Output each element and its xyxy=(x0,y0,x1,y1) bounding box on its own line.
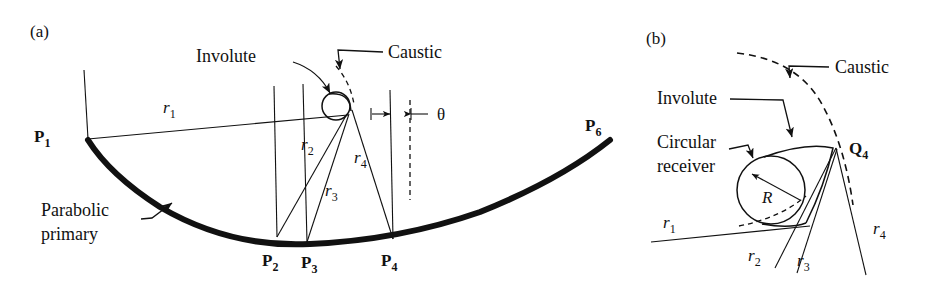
involute-leader-a xyxy=(293,62,330,93)
ray-label-r4-b-sub: 4 xyxy=(880,228,886,242)
ray-label-r1-a: r1 xyxy=(163,98,176,121)
point-label-p1-base: P xyxy=(34,127,44,146)
point-label-q4: Q4 xyxy=(849,139,868,162)
involute-curve-b xyxy=(764,146,833,223)
involute-construction-dash xyxy=(739,196,806,226)
reflected-ray-r3 xyxy=(307,114,349,242)
theta-label: θ xyxy=(437,105,445,124)
involute-label-a: Involute xyxy=(196,46,256,66)
point-label-p4: P4 xyxy=(381,251,397,274)
ray-label-r1-b-sub: 1 xyxy=(670,222,676,236)
point-label-q4-sub: 4 xyxy=(862,148,868,162)
ray-label-r2-b: r2 xyxy=(748,246,761,269)
reflected-ray-r4 xyxy=(352,110,393,239)
ray-label-r2-a: r2 xyxy=(301,135,314,158)
receiver-label-line1: Circular xyxy=(657,132,716,152)
involute-arc-a xyxy=(329,94,351,111)
primary-label-line2: primary xyxy=(41,224,98,244)
ray-label-r4-a-sub: 4 xyxy=(361,157,367,171)
primary-label-line1: Parabolic xyxy=(41,200,109,220)
incoming-ray-p4 xyxy=(390,90,393,239)
point-label-p2: P2 xyxy=(262,251,278,274)
point-label-q4-base: Q xyxy=(849,139,862,158)
point-label-p1-sub: 1 xyxy=(44,136,50,150)
ray-label-r4-b: r4 xyxy=(873,219,886,242)
point-label-p6: P6 xyxy=(585,116,601,139)
ray-label-r3-a: r3 xyxy=(325,181,338,204)
involute-leader-b xyxy=(730,99,792,137)
panel-a-group: (a) Involute Caustic Parabolic primary θ… xyxy=(30,22,610,276)
caustic-label-b: Caustic xyxy=(835,57,889,77)
reflected-ray-r2 xyxy=(277,114,347,237)
receiver-leader-b xyxy=(729,145,753,158)
panel-b-label: (b) xyxy=(646,29,666,48)
ray-label-r3-a-sub: 3 xyxy=(332,190,338,204)
ray-label-r2-a-sub: 2 xyxy=(308,144,314,158)
ray-label-r2-b-sub: 2 xyxy=(755,255,761,269)
point-label-p2-sub: 2 xyxy=(272,260,278,274)
ray-label-r3-b-sub: 3 xyxy=(804,260,810,274)
incoming-ray-p2 xyxy=(274,86,277,237)
panel-b-group: (b) Caustic Involute Circular receiver R… xyxy=(646,29,889,275)
ray-line-r2-b xyxy=(775,148,836,268)
radius-arrow xyxy=(752,174,800,200)
ray-label-r3-b: r3 xyxy=(797,251,810,274)
incoming-ray-p1 xyxy=(84,70,88,139)
involute-label-b: Involute xyxy=(657,88,717,108)
radius-label: R xyxy=(761,188,773,207)
point-label-p1: P1 xyxy=(34,127,50,150)
caustic-curve-a xyxy=(336,66,354,104)
point-label-p3-sub: 3 xyxy=(311,262,317,276)
point-label-p6-sub: 6 xyxy=(595,125,601,139)
panel-a-label: (a) xyxy=(30,22,49,41)
point-label-p3-base: P xyxy=(301,253,311,272)
figure-container: (a) Involute Caustic Parabolic primary θ… xyxy=(0,0,943,286)
caustic-leader-a xyxy=(338,50,383,69)
point-label-p3: P3 xyxy=(301,253,317,276)
receiver-label-line2: receiver xyxy=(657,156,715,176)
point-label-p4-base: P xyxy=(381,251,391,270)
parabolic-primary-curve xyxy=(88,140,610,244)
figure-canvas: (a) Involute Caustic Parabolic primary θ… xyxy=(0,0,943,286)
point-label-p6-base: P xyxy=(585,116,595,135)
point-label-p4-sub: 4 xyxy=(391,260,397,274)
caustic-label-a: Caustic xyxy=(388,42,442,62)
ray-line-r4-b xyxy=(836,148,866,275)
ray-label-r1-a-sub: 1 xyxy=(170,107,176,121)
incoming-ray-p3 xyxy=(303,84,307,242)
ray-label-r1-b: r1 xyxy=(663,213,676,236)
point-label-p2-base: P xyxy=(262,251,272,270)
reflected-ray-r1 xyxy=(88,115,348,139)
caustic-leader-b xyxy=(789,66,829,78)
